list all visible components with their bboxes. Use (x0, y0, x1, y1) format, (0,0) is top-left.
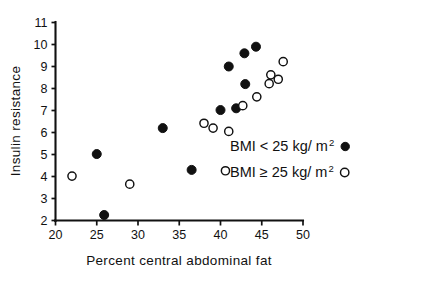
data-point (274, 75, 282, 83)
x-tick-label: 35 (172, 228, 186, 242)
data-points-bmi-under-25 (92, 42, 260, 219)
legend: BMI < 25 kg/ m 2 BMI ≥ 25 kg/ m 2 (230, 137, 349, 181)
legend-label-bmi-over-25: BMI ≥ 25 kg/ m (230, 164, 327, 180)
y-tick-label: 10 (34, 38, 48, 52)
data-point (224, 62, 233, 71)
y-tick-label: 2 (41, 214, 48, 228)
data-point (200, 119, 208, 127)
x-tick-label: 45 (255, 228, 269, 242)
legend-label-bmi-under-25: BMI < 25 kg/ m (230, 138, 328, 154)
data-point (253, 93, 261, 101)
y-tick-label: 6 (41, 126, 48, 140)
data-point (92, 150, 101, 159)
data-point (68, 172, 76, 180)
data-point (187, 165, 196, 174)
legend-entry-bmi-under-25[interactable]: BMI < 25 kg/ m 2 (230, 137, 349, 155)
y-axis-title: Insulin resistance (8, 66, 23, 177)
y-tick-label: 11 (35, 16, 48, 30)
x-tick-label: 30 (131, 228, 145, 242)
y-tick-label: 7 (41, 104, 48, 118)
x-tick-label: 50 (296, 228, 310, 242)
legend-marker-filled-circle-icon (341, 142, 349, 150)
data-point (239, 102, 247, 110)
data-point (225, 127, 233, 135)
data-point (100, 211, 109, 220)
y-tick-label: 3 (41, 192, 48, 206)
y-tick-label: 8 (41, 82, 48, 96)
x-axis-title: Percent central abdominal fat (86, 253, 272, 268)
data-point (126, 180, 134, 188)
data-point (221, 167, 229, 175)
legend-label-sup-bmi-under-25: 2 (329, 137, 334, 148)
scatter-plot-figure: 234567891011 20253035404550 Percent cent… (0, 0, 427, 284)
data-point (265, 80, 273, 88)
x-tick-labels: 20253035404550 (49, 228, 310, 242)
x-tick-label: 40 (214, 228, 228, 242)
y-tick-label: 5 (41, 148, 48, 162)
data-point (209, 124, 217, 132)
data-point (158, 124, 167, 133)
y-tick-label: 9 (41, 60, 48, 74)
data-point (241, 80, 250, 89)
legend-entry-bmi-over-25[interactable]: BMI ≥ 25 kg/ m 2 (230, 163, 349, 181)
data-point (240, 49, 249, 58)
data-point (251, 42, 260, 51)
y-tick-label: 4 (41, 170, 48, 184)
y-tick-labels: 234567891011 (34, 16, 48, 228)
legend-label-sup-bmi-over-25: 2 (328, 163, 333, 174)
plot-canvas: 234567891011 20253035404550 Percent cent… (0, 0, 427, 284)
x-tick-label: 25 (90, 228, 104, 242)
data-point (279, 58, 287, 66)
data-point (216, 106, 225, 115)
legend-marker-open-circle-icon (341, 168, 349, 176)
x-tick-label: 20 (49, 228, 63, 242)
